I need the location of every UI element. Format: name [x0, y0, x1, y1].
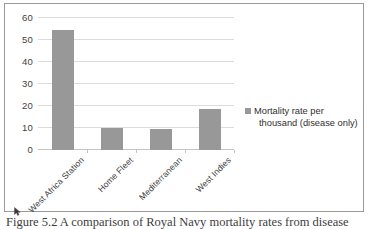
y-axis-tick-label: 0	[28, 144, 33, 155]
y-axis-tick-label: 20	[22, 100, 33, 111]
chart-legend: Mortality rate per thousand (disease onl…	[245, 105, 363, 129]
bar-series	[38, 18, 234, 150]
x-axis-category-label: West Africa Station	[26, 155, 86, 215]
y-axis-tick-label: 50	[22, 34, 33, 45]
bar	[101, 128, 123, 150]
bar	[150, 129, 172, 150]
plot-area: 0102030405060 West Africa StationHome Fl…	[38, 18, 234, 150]
y-axis-tick-label: 60	[22, 12, 33, 23]
x-axis-category-label: Home Fleet	[95, 155, 134, 194]
legend-swatch-icon	[245, 108, 251, 114]
bar	[199, 109, 221, 150]
y-axis-tick-label: 30	[22, 78, 33, 89]
y-axis-tick-label: 40	[22, 56, 33, 67]
x-axis-category-label: West Indies	[193, 155, 232, 194]
x-axis-tick	[185, 150, 186, 153]
x-axis-tick	[136, 150, 137, 153]
legend-entry-label: Mortality rate per thousand (disease onl…	[254, 105, 363, 129]
bar	[52, 30, 74, 150]
y-axis-tick-label: 10	[22, 122, 33, 133]
figure-container: 0102030405060 West Africa StationHome Fl…	[0, 0, 369, 229]
figure-caption: Figure 5.2 A comparison of Royal Navy mo…	[6, 215, 366, 229]
x-axis-tick	[87, 150, 88, 153]
chart-frame: 0102030405060 West Africa StationHome Fl…	[4, 3, 364, 212]
x-axis-category-label: Mediterranean	[136, 155, 183, 202]
x-axis-tick	[234, 150, 235, 153]
